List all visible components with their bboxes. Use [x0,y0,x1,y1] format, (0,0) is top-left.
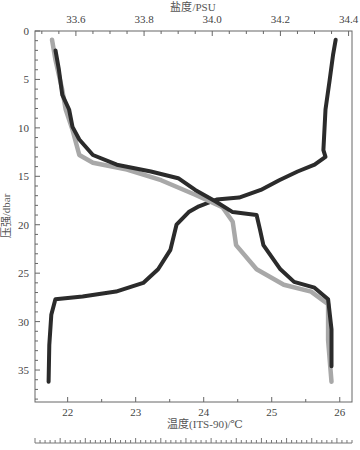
y-tick-label: 20 [18,219,30,231]
bottom-axis-title: 温度(ITS-90)/℃ [167,417,243,431]
y-tick-label: 10 [18,122,30,134]
ctd-profile-chart: 05101520253035 33.633.834.034.234.4 2223… [0,0,360,450]
bottom-axis-ticks: 2223242526 [62,397,346,418]
top-tick-label: 33.8 [134,13,154,25]
top-tick-label: 34.2 [271,13,290,25]
y-axis-title: 压强/dbar [0,193,12,238]
bottom-tick-label: 24 [198,406,210,418]
y-tick-label: 0 [24,25,30,37]
bottom-tick-label: 22 [62,406,73,418]
y-tick-label: 30 [18,316,30,328]
bottom-tick-label: 23 [130,406,142,418]
top-tick-label: 34.4 [339,13,359,25]
top-axis-ticks: 33.633.834.034.234.4 [42,13,359,36]
bottom-tick-label: 26 [334,406,346,418]
top-tick-label: 33.6 [66,13,86,25]
y-tick-label: 5 [24,73,30,85]
top-tick-label: 34.0 [203,13,223,25]
bottom-tick-label: 25 [266,406,278,418]
data-series [49,40,336,382]
series-line [49,40,336,382]
top-axis-title: 盐度/PSU [170,0,215,13]
y-tick-label: 25 [18,267,30,279]
y-tick-label: 35 [18,364,30,376]
decorative-ruler [35,438,352,443]
y-axis-ticks: 05101520253035 [18,25,40,399]
plot-frame [35,31,352,402]
y-tick-label: 15 [18,170,30,182]
